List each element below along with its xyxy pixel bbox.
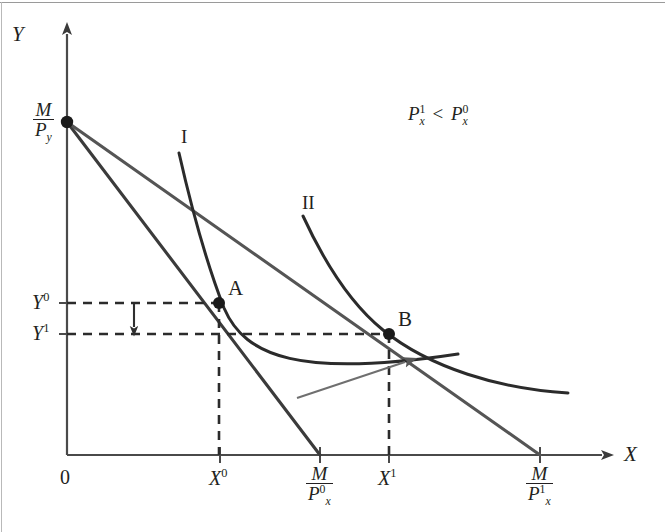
origin-label: 0 xyxy=(60,466,70,489)
price-inequality-annotation: P1x < P0x xyxy=(408,103,468,129)
indifference-curve-I xyxy=(179,153,458,364)
equilibrium-points xyxy=(61,116,395,340)
budget-line-price1 xyxy=(67,122,540,455)
curve-label-I: I xyxy=(181,126,187,148)
y-tick-label-Y0: Y0 xyxy=(32,290,49,314)
point-origin-dot xyxy=(61,116,73,128)
x-tick-label-X0: X0 xyxy=(209,466,227,490)
y-intercept-label: M Py xyxy=(33,100,54,144)
point-label-A: A xyxy=(228,276,243,301)
x-tick-label-M-over-Px1: M P1x xyxy=(526,464,553,509)
axes xyxy=(67,34,602,455)
point-A-dot[interactable] xyxy=(213,297,225,309)
indifference-curve-II xyxy=(303,216,568,393)
y-tick-label-Y1: Y1 xyxy=(32,321,49,345)
y-axis-label: Y xyxy=(12,22,24,47)
dashed-guides xyxy=(67,303,389,455)
budget-line-price0 xyxy=(67,122,320,455)
y-intercept-denominator: Py xyxy=(33,119,54,144)
point-label-B: B xyxy=(398,307,412,332)
point-B-dot[interactable] xyxy=(383,328,395,340)
budget-lines xyxy=(67,122,540,455)
curve-label-II: II xyxy=(302,192,315,214)
x-axis-label: X xyxy=(624,442,637,467)
y-intercept-numerator: M xyxy=(33,100,54,119)
x-tick-label-X1: X1 xyxy=(378,466,396,490)
x-tick-label-M-over-Px0: M P0x xyxy=(306,464,333,509)
indifference-curves xyxy=(179,153,568,393)
substitution-effect-arrow xyxy=(297,362,405,398)
economics-diagram-canvas xyxy=(0,0,665,532)
